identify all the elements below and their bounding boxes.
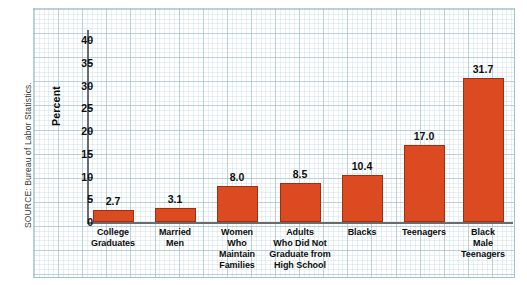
x-axis-category-label-line: Male xyxy=(446,238,520,249)
bar xyxy=(280,183,321,222)
y-axis-tick: 30 xyxy=(55,81,93,92)
y-axis-tick: 25 xyxy=(55,103,93,114)
bar-value-label: 3.1 xyxy=(145,194,205,205)
bar-value-label: 8.5 xyxy=(270,169,330,180)
chart-figure: SOURCE: Bureau of Labor Statistics. Perc… xyxy=(0,0,527,285)
y-axis-tick-label: 25 xyxy=(71,103,93,114)
bar-value-label: 17.0 xyxy=(394,131,454,142)
y-axis-tick: 35 xyxy=(55,58,93,69)
bar xyxy=(463,78,504,222)
y-axis-tick: 20 xyxy=(55,126,93,137)
bar xyxy=(404,145,445,222)
x-axis-category-label: BlackMaleTeenagers xyxy=(446,227,520,260)
y-axis-tick-label: 40 xyxy=(71,35,93,46)
y-axis-tick: 15 xyxy=(55,149,93,160)
y-axis-tick: 10 xyxy=(55,172,93,183)
x-axis-category-label-line: High School xyxy=(263,260,337,271)
bar-value-label: 31.7 xyxy=(453,64,513,75)
y-axis-tick: 40 xyxy=(55,35,93,46)
bar-value-label: 10.4 xyxy=(332,161,392,172)
y-axis-tick-label: 20 xyxy=(71,126,93,137)
x-axis-line xyxy=(87,222,513,224)
x-axis-category-label-line: Black xyxy=(446,227,520,238)
y-axis-tick-label: 30 xyxy=(71,81,93,92)
y-axis-tick-label: 15 xyxy=(71,149,93,160)
y-axis-tick-label: 35 xyxy=(71,58,93,69)
x-axis-category-label-line: Graduate from xyxy=(263,249,337,260)
bar xyxy=(155,208,196,222)
x-axis-category-label-line: Teenagers xyxy=(446,249,520,260)
x-axis-category-label-line: Who Did Not xyxy=(263,238,337,249)
source-note: SOURCE: Bureau of Labor Statistics. xyxy=(23,65,33,245)
bar xyxy=(93,210,134,222)
bar xyxy=(342,175,383,222)
bar xyxy=(217,186,258,222)
bar-value-label: 8.0 xyxy=(207,172,267,183)
y-axis-tick-label: 10 xyxy=(71,172,93,183)
bar-value-label: 2.7 xyxy=(83,196,143,207)
y-axis-tick-label: 0 xyxy=(71,217,93,228)
